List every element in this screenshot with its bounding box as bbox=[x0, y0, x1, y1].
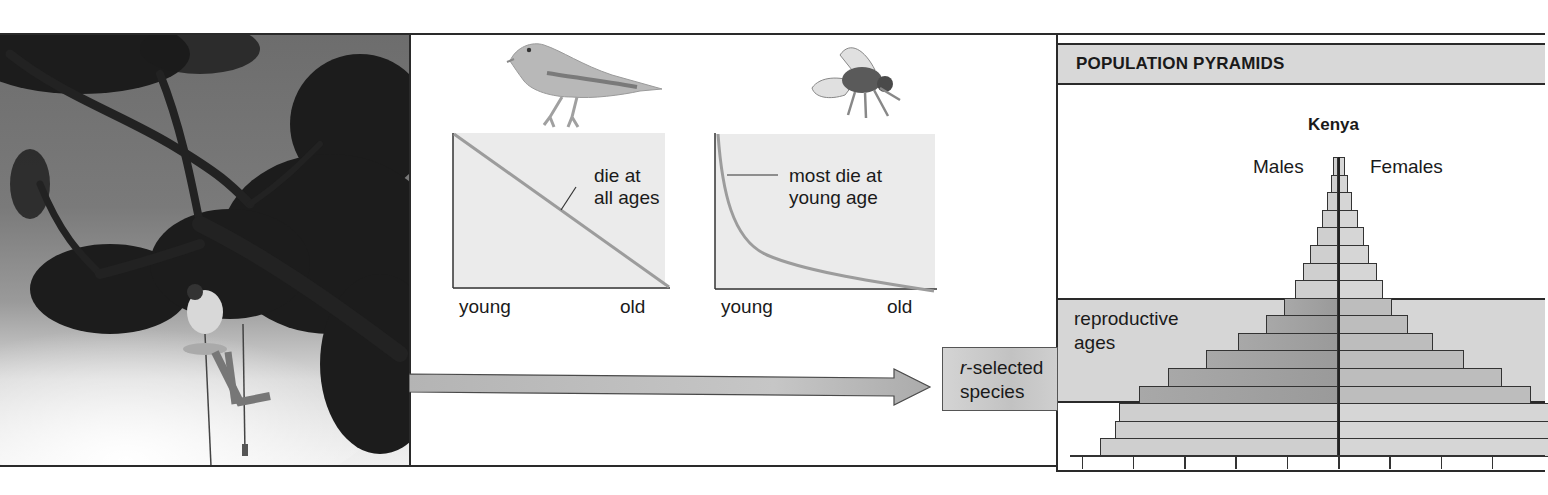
pyramid-bar-female bbox=[1338, 280, 1383, 299]
pyramid-bar-male bbox=[1303, 263, 1338, 282]
pyramid-bar-male bbox=[1238, 333, 1338, 352]
pyramid-bar-male bbox=[1139, 386, 1338, 405]
pyramid-bar-male bbox=[1115, 421, 1338, 440]
pyramid-bar-female bbox=[1338, 263, 1377, 282]
pyramid-bar-female bbox=[1338, 368, 1502, 387]
pyramid-bar-male bbox=[1322, 210, 1338, 229]
x-axis-tick bbox=[1287, 457, 1289, 469]
x-axis bbox=[1070, 455, 1545, 457]
pyramid-bar-female bbox=[1338, 315, 1408, 334]
x-axis-tick bbox=[1133, 457, 1135, 469]
pyramid-bar-female bbox=[1338, 421, 1548, 440]
pyramid-center-axis bbox=[1338, 157, 1340, 468]
pyramid-bar-female bbox=[1338, 245, 1369, 264]
pyramid-bar-male bbox=[1331, 175, 1338, 194]
pyramid-bar-female bbox=[1338, 386, 1531, 405]
pyramid-bar-female bbox=[1338, 210, 1358, 229]
pyramid-bar-male bbox=[1119, 403, 1338, 422]
pyramid-bar-female bbox=[1338, 192, 1352, 211]
x-axis-tick bbox=[1338, 457, 1340, 469]
pyramid-bar-female bbox=[1338, 350, 1464, 369]
pyramid-bar-female bbox=[1338, 333, 1433, 352]
pyramid-bar-male bbox=[1206, 350, 1338, 369]
pyramid-bar-male bbox=[1310, 245, 1338, 264]
x-axis-tick bbox=[1441, 457, 1443, 469]
pyramid-bar-female bbox=[1338, 403, 1548, 422]
pyramid-bar-female bbox=[1338, 227, 1364, 246]
x-axis-tick bbox=[1235, 457, 1237, 469]
x-axis-tick bbox=[1082, 457, 1084, 469]
pyramid-bar-female bbox=[1338, 175, 1348, 194]
pyramid-bar-male bbox=[1317, 227, 1338, 246]
pyramid-bar-female bbox=[1338, 298, 1392, 317]
x-axis-tick bbox=[1389, 457, 1391, 469]
pyramid-bar-male bbox=[1284, 298, 1338, 317]
x-axis-tick bbox=[1184, 457, 1186, 469]
pyramid-bar-male bbox=[1266, 315, 1338, 334]
pyramid-bar-male bbox=[1295, 280, 1338, 299]
pyramid-bar-male bbox=[1327, 192, 1338, 211]
x-axis-tick bbox=[1492, 457, 1494, 469]
pyramid-bar-male bbox=[1168, 368, 1338, 387]
